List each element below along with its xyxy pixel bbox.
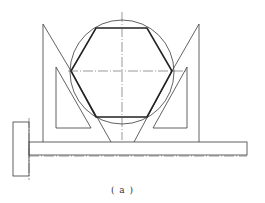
right-outer-bracket (172, 24, 199, 142)
hexagon (71, 28, 172, 117)
t-head (13, 122, 29, 176)
mechanical-drawing (0, 0, 265, 203)
figure-caption: ( a ) (0, 185, 245, 195)
left-outer-bracket (43, 24, 71, 142)
shaft (29, 142, 247, 155)
